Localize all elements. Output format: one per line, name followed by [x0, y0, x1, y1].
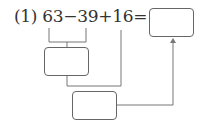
expression-text: 63−39+16=: [42, 6, 147, 26]
answer-box[interactable]: [149, 8, 194, 37]
step2-box[interactable]: [72, 91, 117, 120]
step1-box[interactable]: [44, 47, 89, 76]
problem-label: (1): [14, 6, 37, 26]
math-expression: (1) 63−39+16=: [14, 6, 147, 26]
